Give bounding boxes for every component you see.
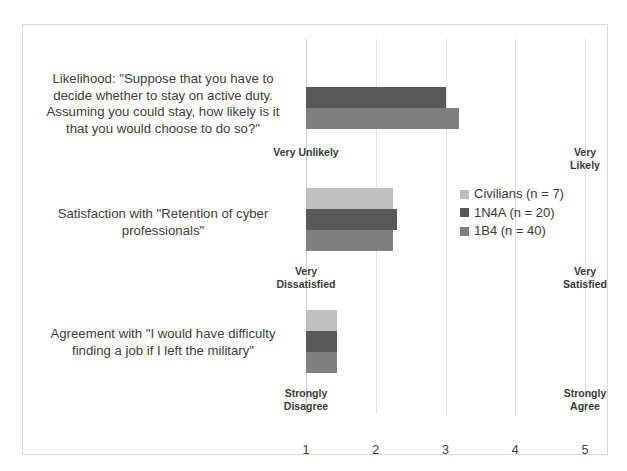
category-label-line: Likelihood: "Suppose that you have to xyxy=(29,71,297,88)
bar-satisfaction-1b4[interactable] xyxy=(306,230,393,251)
xtick-4: 4 xyxy=(512,443,519,457)
legend: Civilians (n = 7) 1N4A (n = 20) 1B4 (n =… xyxy=(460,185,564,241)
legend-label: 1B4 (n = 40) xyxy=(474,222,546,241)
xtick-1: 1 xyxy=(303,443,310,457)
bar-likelihood-1n4a[interactable] xyxy=(306,87,446,108)
anchor-low-likelihood: Very Unlikely xyxy=(273,146,338,159)
bar-likelihood-1b4[interactable] xyxy=(306,108,459,129)
bar-agreement-civilians[interactable] xyxy=(306,310,337,331)
category-label-line: that you would choose to do so?" xyxy=(29,121,297,138)
plot-area: Likelihood: "Suppose that you have to de… xyxy=(23,25,607,454)
category-label-line: Satisfaction with "Retention of cyber xyxy=(29,206,297,223)
legend-swatch-icon xyxy=(460,227,469,236)
xtick-5: 5 xyxy=(582,443,589,457)
legend-item-1n4a[interactable]: 1N4A (n = 20) xyxy=(460,204,564,223)
legend-swatch-icon xyxy=(460,208,469,217)
category-label-satisfaction: Satisfaction with "Retention of cyber pr… xyxy=(29,206,297,239)
anchor-high-likelihood: Very Likely xyxy=(570,146,600,171)
bar-satisfaction-1n4a[interactable] xyxy=(306,209,397,230)
category-label-line: Agreement with "I would have difficulty xyxy=(29,326,297,343)
bar-satisfaction-civilians[interactable] xyxy=(306,188,393,209)
category-label-line: decide whether to stay on active duty. xyxy=(29,88,297,105)
category-label-likelihood: Likelihood: "Suppose that you have to de… xyxy=(29,71,297,137)
legend-label: Civilians (n = 7) xyxy=(474,185,564,204)
anchor-low-satisfaction: Very Dissatisfied xyxy=(277,265,336,290)
anchor-high-satisfaction: Very Satisfied xyxy=(563,265,607,290)
legend-item-civilians[interactable]: Civilians (n = 7) xyxy=(460,185,564,204)
anchor-low-agreement: Strongly Disagree xyxy=(284,387,328,412)
chart-container: Likelihood: "Suppose that you have to de… xyxy=(22,24,608,455)
legend-item-1b4[interactable]: 1B4 (n = 40) xyxy=(460,222,564,241)
category-label-line: finding a job if I left the military" xyxy=(29,343,297,360)
category-label-line: professionals" xyxy=(29,223,297,240)
xtick-3: 3 xyxy=(442,443,449,457)
category-label-line: Assuming you could stay, how likely is i… xyxy=(29,104,297,121)
legend-swatch-icon xyxy=(460,190,469,199)
xtick-2: 2 xyxy=(372,443,379,457)
anchor-high-agreement: Strongly Agree xyxy=(564,387,607,412)
gridline-3 xyxy=(446,39,447,414)
bar-agreement-1n4a[interactable] xyxy=(306,331,337,352)
legend-label: 1N4A (n = 20) xyxy=(474,204,555,223)
bar-agreement-1b4[interactable] xyxy=(306,352,337,373)
category-label-agreement: Agreement with "I would have difficulty … xyxy=(29,326,297,359)
gridline-5 xyxy=(585,39,586,414)
